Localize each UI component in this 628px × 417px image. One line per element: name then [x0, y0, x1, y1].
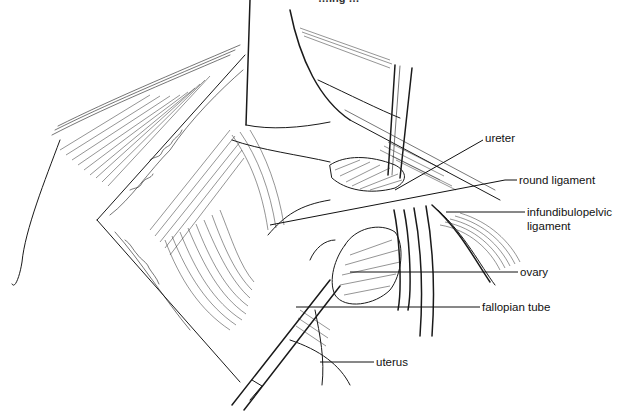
figure-caption-partial: …ing … [318, 0, 360, 4]
abdominal-wall-left [12, 45, 245, 382]
lower-forceps [232, 240, 340, 410]
label-uterus: uterus [376, 356, 408, 369]
ovary-structure [332, 227, 401, 304]
broad-ligament-edge [268, 200, 330, 235]
narrow-retractor [388, 65, 412, 178]
label-infundibulopelvic-ligament-line1: infundibulopelvic [527, 206, 612, 219]
label-ureter: ureter [485, 132, 515, 145]
upper-retractor [246, 0, 400, 128]
pelvic-sidewall-hatching [165, 130, 284, 330]
abdominal-wall-right [345, 110, 500, 200]
leader-lines [270, 140, 525, 362]
label-fallopian-tube: fallopian tube [482, 301, 550, 314]
leader-round-ligament [270, 180, 517, 225]
peritoneal-fold [232, 140, 330, 162]
label-round-ligament: round ligament [519, 174, 595, 187]
ureter-structure [330, 158, 404, 192]
surgical-illustration: …ing … [0, 0, 628, 417]
label-infundibulopelvic-ligament-line2: ligament [527, 220, 570, 233]
leader-ureter [395, 140, 483, 190]
right-tissue-hatching [440, 213, 520, 270]
label-ovary: ovary [520, 266, 548, 279]
clamps [394, 205, 495, 336]
uterus-structure [290, 310, 350, 385]
